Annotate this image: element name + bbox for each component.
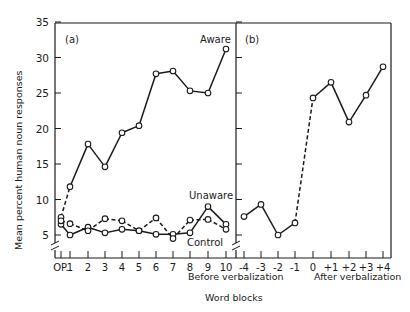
y-axis-title: Mean percent human noun responses [13, 70, 24, 250]
unawareseries [58, 204, 229, 238]
data-point [102, 216, 108, 222]
x-axis: OP.12345678910-4-3-2-10+1+2+3+4 [53, 251, 390, 273]
data-point [223, 227, 229, 233]
data-point [119, 227, 125, 233]
svg-text:10: 10 [36, 194, 49, 206]
data-point [223, 46, 229, 52]
aware-legend-label: Aware [200, 34, 231, 45]
svg-text:1: 1 [67, 262, 73, 273]
data-point [328, 80, 334, 86]
data-point [187, 88, 193, 94]
data-point [136, 123, 142, 129]
data-point [102, 164, 108, 170]
unaware-legend-label: Unaware [189, 190, 233, 201]
data-point [136, 228, 142, 234]
data-point [119, 130, 125, 136]
x-axis-title: Word blocks [205, 292, 263, 303]
svg-text:20: 20 [36, 123, 49, 135]
svg-text:5: 5 [42, 229, 49, 241]
data-point [67, 232, 73, 238]
plot-frame [51, 23, 391, 258]
data-point [153, 215, 159, 221]
data-point [241, 214, 247, 220]
data-point [380, 64, 386, 70]
panel-b-label: (b) [245, 34, 259, 45]
data-point [205, 217, 211, 223]
svg-text:2: 2 [85, 262, 91, 273]
data-point [85, 141, 91, 147]
svg-text:7: 7 [170, 262, 176, 273]
svg-text:6: 6 [153, 262, 159, 273]
data-point [153, 231, 159, 237]
data-point [170, 236, 176, 242]
svg-text:30: 30 [36, 52, 49, 64]
data-point [275, 232, 281, 238]
data-point [258, 202, 264, 208]
data-point [346, 119, 352, 125]
data-point [205, 204, 211, 210]
series-lines [58, 46, 386, 241]
data-point [170, 68, 176, 74]
data-point [102, 230, 108, 236]
data-point [187, 230, 193, 236]
data-point [67, 184, 73, 190]
svg-text:3: 3 [102, 262, 108, 273]
control-legend-label: Control [187, 237, 223, 248]
panel-b-awareseries [241, 64, 386, 238]
after-verbalization-label: After verbalization [314, 271, 401, 282]
data-point [67, 221, 73, 227]
svg-text:-1: -1 [290, 262, 300, 273]
svg-text:35: 35 [36, 16, 49, 28]
data-point [119, 218, 125, 224]
svg-text:15: 15 [36, 158, 49, 170]
data-point [187, 217, 193, 223]
svg-text:4: 4 [119, 262, 125, 273]
svg-text:25: 25 [36, 87, 49, 99]
data-point [85, 228, 91, 234]
data-point [58, 218, 64, 224]
svg-text:5: 5 [136, 262, 142, 273]
chart: 5101520253035 OP.12345678910-4-3-2-10+1+… [0, 0, 410, 312]
data-point [310, 95, 316, 101]
data-point [205, 90, 211, 96]
panel-a-label: (a) [65, 34, 79, 45]
data-point [153, 71, 159, 77]
data-point [363, 92, 369, 98]
data-point [292, 220, 298, 226]
before-verbalization-label: Before verbalization [188, 271, 284, 282]
